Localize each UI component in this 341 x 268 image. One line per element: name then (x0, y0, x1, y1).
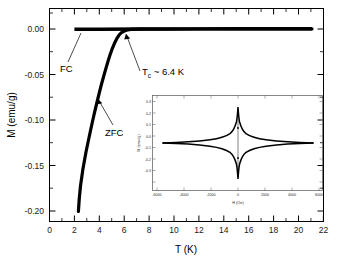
x-tick-label: 2 (72, 225, 77, 235)
inset-x-tick-label: 0 (237, 193, 239, 197)
inset-data-point (237, 157, 239, 159)
y-tick-label: -0.20 (25, 206, 45, 216)
y-tick-label: -0.15 (25, 161, 45, 171)
inset-x-tick-label: 4000 (288, 193, 296, 197)
x-tick-label: 22 (319, 225, 329, 235)
inset-y-tick-label: 0.2 (146, 112, 151, 116)
x-tick-label: 18 (269, 225, 279, 235)
x-tick-label: 16 (244, 225, 254, 235)
annotation-fc-label: FC (60, 63, 73, 74)
chart-svg: 0.00 -0.05 -0.10 -0.15 -0.20 (0, 0, 341, 268)
tc-value: ~ 6.4 K (151, 66, 185, 77)
y-tick-label: 0.00 (27, 24, 44, 34)
inset-y-tick-label: -0.2 (145, 158, 151, 162)
x-tick-label: 6 (122, 225, 127, 235)
x-tick-label: 20 (294, 225, 304, 235)
inset-data-point (237, 127, 239, 129)
inset-x-tick-label: 2000 (261, 193, 269, 197)
inset-y-tick-label: -0.1 (145, 146, 151, 150)
inset-x-tick-label: -6000 (152, 193, 161, 197)
x-tick-label: 0 (47, 225, 52, 235)
inset-x-axis-title: H (Oe) (232, 201, 244, 205)
y-tick-label: -0.05 (25, 70, 45, 80)
inset-y-tick-label: -0.3 (145, 169, 151, 173)
annotation-zfc-label: ZFC (105, 127, 124, 138)
inset-x-tick-label: -2000 (206, 193, 215, 197)
y-axis-title: M (emu/g) (6, 92, 17, 138)
x-tick-label: 8 (147, 225, 152, 235)
x-tick-label: 12 (194, 225, 204, 235)
x-tick-label: 10 (169, 225, 179, 235)
inset-y-tick-label: 0.3 (146, 100, 151, 104)
inset-y-tick-label: 0.0 (146, 135, 151, 139)
inset-y-axis-title: M (emu/g) (137, 134, 141, 152)
x-tick-label: 14 (219, 225, 229, 235)
inset-y-tick-label: 0.1 (146, 123, 151, 127)
x-axis-title: T (K) (175, 244, 197, 255)
inset-x-tick-label: 6000 (315, 193, 323, 197)
magnetization-figure: 0.00 -0.05 -0.10 -0.15 -0.20 (0, 0, 341, 268)
inset-x-tick-label: -4000 (179, 193, 188, 197)
x-tick-label: 4 (97, 225, 102, 235)
y-tick-label: -0.10 (25, 115, 45, 125)
